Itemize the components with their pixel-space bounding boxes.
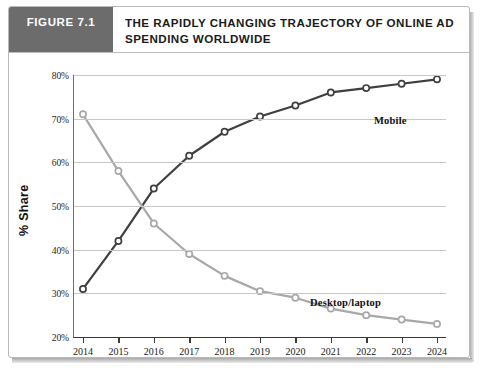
data-point-marker — [80, 111, 86, 117]
x-axis-tick-label: 2023 — [392, 346, 412, 357]
data-point-marker — [434, 76, 440, 82]
x-axis-tick-label: 2021 — [321, 346, 341, 357]
x-axis-tick — [331, 337, 332, 343]
figure-header: FIGURE 7.1 THE RAPIDLY CHANGING TRAJECTO… — [9, 7, 469, 53]
x-axis-tick — [154, 337, 155, 343]
y-axis-tick-label: 70% — [52, 113, 69, 124]
series-annotation-label: Mobile — [374, 115, 407, 126]
x-axis-tick-label: 2022 — [356, 346, 376, 357]
plot-area: 80%70%60%50%40%30%20%2014201520162017201… — [73, 75, 446, 338]
y-axis-tick-label: 20% — [52, 332, 69, 343]
x-axis-tick — [295, 337, 296, 343]
figure-title: THE RAPIDLY CHANGING TRAJECTORY OF ONLIN… — [125, 15, 461, 46]
x-axis-tick-label: 2014 — [73, 346, 93, 357]
data-point-marker — [151, 185, 157, 191]
data-point-marker — [115, 238, 121, 244]
y-axis-tick-label: 30% — [52, 288, 69, 299]
y-axis-tick-label: 50% — [52, 201, 69, 212]
x-axis-tick — [437, 337, 438, 343]
series-line — [83, 79, 437, 289]
y-axis-tick-label: 80% — [52, 70, 69, 81]
card-shadow-bottom — [12, 358, 472, 363]
gridline — [74, 250, 446, 251]
x-axis-tick-label: 2024 — [427, 346, 447, 357]
data-point-marker — [222, 273, 228, 279]
data-point-marker — [151, 220, 157, 226]
data-point-marker — [434, 321, 440, 327]
data-point-marker — [186, 153, 192, 159]
chart-body: % Share 80%70%60%50%40%30%20%20142015201… — [9, 53, 471, 358]
data-point-marker — [363, 312, 369, 318]
data-point-marker — [186, 251, 192, 257]
plot-wrapper: 80%70%60%50%40%30%20%2014201520162017201… — [37, 59, 461, 351]
x-axis-tick-label: 2018 — [215, 346, 235, 357]
card-shadow-right — [470, 12, 474, 362]
figure-number-badge: FIGURE 7.1 — [9, 7, 113, 52]
x-axis-tick — [83, 337, 84, 343]
x-axis-tick — [118, 337, 119, 343]
data-point-marker — [399, 81, 405, 87]
figure-card: FIGURE 7.1 THE RAPIDLY CHANGING TRAJECTO… — [8, 6, 470, 358]
data-point-marker — [399, 316, 405, 322]
x-axis-tick — [402, 337, 403, 343]
x-axis-tick-label: 2016 — [144, 346, 164, 357]
x-axis-tick-label: 2019 — [250, 346, 270, 357]
x-axis-tick-label: 2015 — [108, 346, 128, 357]
x-axis-tick — [225, 337, 226, 343]
y-axis-title: % Share — [17, 165, 33, 255]
data-point-marker — [222, 129, 228, 135]
x-axis-tick — [189, 337, 190, 343]
x-axis-tick-label: 2020 — [285, 346, 305, 357]
data-point-marker — [328, 89, 334, 95]
gridline — [74, 75, 446, 76]
x-axis-tick — [366, 337, 367, 343]
data-point-marker — [292, 102, 298, 108]
y-axis-tick-label: 40% — [52, 244, 69, 255]
gridline — [74, 206, 446, 207]
y-axis-tick-label: 60% — [52, 157, 69, 168]
data-point-marker — [292, 295, 298, 301]
data-point-marker — [363, 85, 369, 91]
data-point-marker — [115, 168, 121, 174]
gridline — [74, 162, 446, 163]
x-axis-tick — [260, 337, 261, 343]
figure-number-label: FIGURE 7.1 — [27, 16, 96, 28]
data-point-marker — [80, 286, 86, 292]
x-axis-tick-label: 2017 — [179, 346, 199, 357]
gridline — [74, 293, 446, 294]
series-annotation-label: Desktop/laptop — [310, 297, 381, 308]
